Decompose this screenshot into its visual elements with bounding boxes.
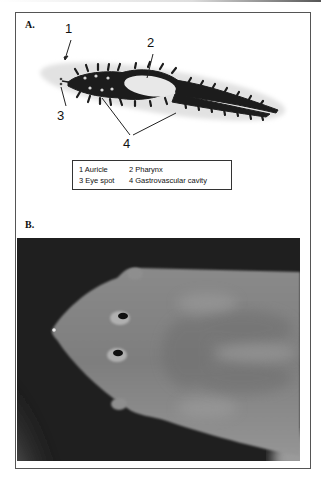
legend-item-gastrovascular-cavity: 4 Gastrovascular cavity (129, 175, 207, 186)
panel-b-label: B. (25, 219, 34, 230)
legend-item-eye-spot: 3 Eye spot (79, 175, 129, 186)
panel-b-photo (17, 238, 300, 461)
legend-item-pharynx: 2 Pharynx (129, 164, 163, 175)
panel-a-planarian-illustration (0, 0, 321, 240)
callout-1-auricle: 1 (65, 21, 72, 36)
eye-spot (118, 313, 128, 320)
legend-row: 1 Auricle 2 Pharynx (79, 164, 231, 175)
eye-spot (113, 350, 123, 357)
panel-a-legend: 1 Auricle 2 Pharynx 3 Eye spot 4 Gastrov… (72, 160, 232, 190)
callout-3-eye-spot: 3 (57, 108, 64, 123)
eye-spot (60, 78, 63, 81)
legend-item-auricle: 1 Auricle (79, 164, 129, 175)
callout-4-gastrovascular-cavity: 4 (123, 136, 130, 151)
callout-2-pharynx: 2 (147, 35, 154, 50)
eye-spot (60, 83, 63, 86)
auricle (111, 398, 127, 410)
planarian-head-photo (17, 238, 300, 461)
legend-row: 3 Eye spot 4 Gastrovascular cavity (79, 175, 231, 186)
auricle (127, 268, 143, 280)
